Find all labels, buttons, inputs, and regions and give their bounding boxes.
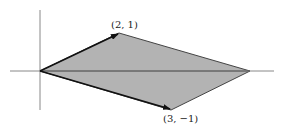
vector-3-neg1-label: (3, −1) xyxy=(163,113,198,124)
vector-2-1-label: (2, 1) xyxy=(111,19,138,30)
parallelogram-diagram: (2, 1) (3, −1) xyxy=(0,0,284,132)
